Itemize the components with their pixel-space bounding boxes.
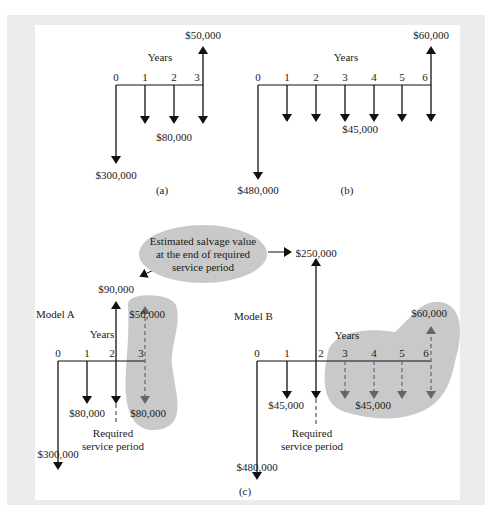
initial-label-b: $480,000	[237, 185, 278, 196]
model-b-axis-label: Years	[335, 330, 360, 341]
callout-line-2: at the end of required	[150, 248, 256, 261]
diagram-a	[116, 50, 203, 160]
model-b-title: Model B	[234, 311, 273, 322]
model-a-period-1: 1	[84, 348, 90, 359]
model-b-salvage-at-service-end: $250,000	[295, 248, 336, 259]
model-b-period-3: 3	[342, 348, 348, 359]
period-b-6: 6	[422, 72, 428, 83]
model-a-period-2: 2	[109, 348, 115, 359]
model-b-original-salvage: $60,000	[411, 308, 447, 319]
initial-label-a: $300,000	[95, 170, 136, 181]
shaded-region-b	[325, 302, 460, 419]
period-a-3: 3	[194, 72, 200, 83]
period-a-1: 1	[142, 72, 148, 83]
model-a-initial: $300,000	[37, 449, 78, 460]
diagram-b	[258, 50, 431, 176]
caption-a: (a)	[156, 185, 168, 196]
model-a-period-0: 0	[55, 348, 61, 359]
salvage-label-b: $60,000	[413, 30, 449, 41]
model-a-title: Model A	[36, 309, 75, 320]
recurring-label-b: $45,000	[342, 124, 378, 135]
period-b-4: 4	[371, 72, 377, 83]
model-b-period-0: 0	[254, 348, 260, 359]
model-a-period-3: 3	[138, 348, 144, 359]
callout-line-1: Estimated salvage value	[150, 235, 256, 248]
model-b-recurring-left: $45,000	[268, 400, 304, 411]
callout-line-3: service period	[150, 261, 256, 274]
model-b-period-1: 1	[284, 348, 290, 359]
model-a-axis-label: Years	[90, 329, 115, 340]
model-a-recurring-right: $80,000	[130, 408, 166, 419]
period-b-0: 0	[255, 72, 261, 83]
model-b-required-service-line1: Required	[292, 428, 332, 439]
model-b-initial: $480,000	[236, 462, 277, 473]
model-a-recurring-left: $80,000	[69, 408, 105, 419]
model-b-recurring-right: $45,000	[355, 400, 391, 411]
period-b-3: 3	[342, 72, 348, 83]
axis-label-b: Years	[334, 52, 359, 63]
model-a-required-service-line2: service period	[82, 441, 144, 452]
axis-label-a: Years	[148, 52, 173, 63]
model-a-original-salvage: $50,000	[129, 309, 165, 320]
period-b-1: 1	[284, 72, 290, 83]
salvage-label-a: $50,000	[185, 30, 221, 41]
model-b-period-4: 4	[371, 348, 377, 359]
model-b-required-service-line2: service period	[281, 441, 343, 452]
salvage-callout-bubble: Estimated salvage value at the end of re…	[139, 225, 267, 283]
model-a-salvage-at-service-end: $90,000	[98, 284, 134, 295]
recurring-label-a: $80,000	[156, 132, 192, 143]
period-a-0: 0	[113, 72, 119, 83]
period-b-2: 2	[313, 72, 319, 83]
caption-b: (b)	[341, 185, 354, 196]
model-b-period-6: 6	[423, 348, 429, 359]
model-b-period-2: 2	[318, 348, 324, 359]
period-a-2: 2	[171, 72, 177, 83]
model-b-period-5: 5	[399, 348, 405, 359]
period-b-5: 5	[399, 72, 405, 83]
model-a-required-service-line1: Required	[93, 428, 133, 439]
caption-c: (c)	[239, 486, 251, 497]
